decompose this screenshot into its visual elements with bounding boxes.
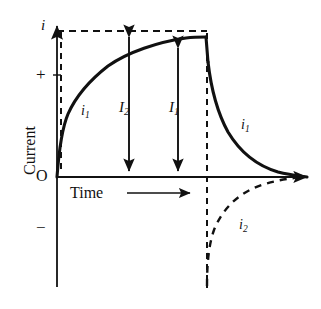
y-axis-symbol: i: [41, 18, 45, 33]
switch-drop-segment: [206, 37, 208, 62]
negative-tick-label: −: [36, 219, 46, 236]
positive-tick-label: +: [36, 66, 46, 83]
charging-current-label: i1: [81, 104, 90, 120]
reverse-current-curve: [207, 177, 305, 286]
i1-measure-label-sub: 1: [174, 106, 179, 117]
discharging-current-curve: [208, 62, 307, 177]
current-vs-time-figure: i Current O + − Time i1 I2 I1 i1 i2: [0, 0, 321, 309]
decaying-current-label: i1: [241, 118, 250, 134]
origin-label: O: [36, 168, 48, 184]
x-axis-title: Time: [70, 185, 103, 201]
charging-current-label-sub: 1: [85, 110, 90, 120]
decaying-current-label-sub: 1: [245, 124, 250, 134]
reverse-current-label-sub: 2: [243, 224, 248, 234]
i2-measure-label-sub: 2: [124, 106, 129, 117]
i1-measure-label: I1: [169, 100, 179, 117]
charging-current-curve: [57, 37, 206, 177]
i2-measure-label: I2: [119, 100, 129, 117]
plot-canvas: [0, 0, 321, 309]
reverse-current-label: i2: [239, 218, 248, 234]
